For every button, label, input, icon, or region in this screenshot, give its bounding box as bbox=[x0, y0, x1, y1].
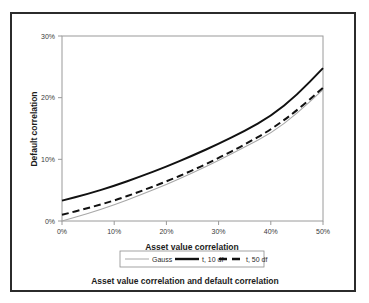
plot-area-frame bbox=[62, 36, 323, 221]
x-tick-label: 50% bbox=[316, 228, 330, 235]
x-tick-label: 20% bbox=[159, 228, 173, 235]
figure-caption: Asset value correlation and default corr… bbox=[91, 276, 279, 286]
legend-label-t50df: t, 50 df bbox=[246, 256, 267, 263]
y-tick-label: 20% bbox=[41, 94, 55, 101]
x-axis-ticks bbox=[62, 221, 323, 225]
series-line-t-10-df bbox=[62, 68, 323, 201]
y-axis-tick-labels: 30% 20% 10% 0% bbox=[41, 33, 55, 225]
chart-legend: Gauss t, 10 df t, 50 df bbox=[120, 251, 267, 267]
y-tick-label: 30% bbox=[41, 33, 55, 40]
default-correlation-line-chart: 30% 20% 10% 0% 0% 10% 20% 30% 40% bbox=[12, 14, 358, 294]
figure-frame: 30% 20% 10% 0% 0% 10% 20% 30% 40% bbox=[10, 12, 356, 292]
x-tick-label: 0% bbox=[57, 228, 67, 235]
chart-stage: 30% 20% 10% 0% 0% 10% 20% 30% 40% bbox=[12, 14, 358, 294]
y-tick-label: 10% bbox=[41, 156, 55, 163]
y-tick-label: 0% bbox=[45, 218, 55, 225]
legend-label-gauss: Gauss bbox=[152, 256, 173, 263]
y-axis-ticks bbox=[58, 36, 62, 221]
data-series-group bbox=[62, 68, 323, 221]
x-axis-title: Asset value correlation bbox=[145, 242, 239, 252]
x-tick-label: 30% bbox=[212, 228, 226, 235]
x-axis-tick-labels: 0% 10% 20% 30% 40% 50% bbox=[57, 228, 330, 235]
x-tick-label: 40% bbox=[264, 228, 278, 235]
x-tick-label: 10% bbox=[107, 228, 121, 235]
y-axis-title: Default correlation bbox=[29, 91, 39, 166]
